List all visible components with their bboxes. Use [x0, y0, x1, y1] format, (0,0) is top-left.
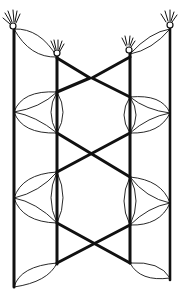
- string-figure-diagram: [0, 0, 180, 297]
- right-outer-head: [161, 10, 177, 28]
- top-right-lens: [130, 29, 170, 54]
- upper-left-wedge: [57, 58, 90, 92]
- bottom-left-lens: [14, 263, 57, 287]
- upper-right-wedge: [92, 57, 130, 97]
- left-outer-head: [3, 10, 20, 29]
- left-inner-head: [51, 40, 64, 56]
- bottom-right-lens: [130, 263, 170, 279]
- top-left-lens: [14, 29, 57, 57]
